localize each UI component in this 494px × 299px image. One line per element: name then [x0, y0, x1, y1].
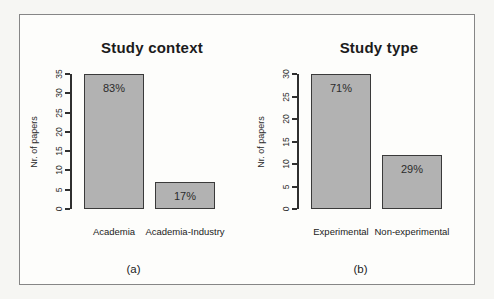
y-axis-tick	[65, 131, 70, 133]
panel-caption: (b)	[247, 263, 474, 275]
bar-percentage-label: 17%	[155, 190, 215, 202]
panel-caption: (a)	[20, 263, 247, 275]
y-axis-tick	[65, 150, 70, 152]
y-axis-line	[70, 74, 72, 209]
bar-percentage-label: 29%	[382, 163, 442, 175]
y-axis-tick	[292, 141, 297, 143]
y-axis-tick	[65, 92, 70, 94]
bar-academia	[84, 74, 144, 209]
y-axis-tick	[65, 189, 70, 191]
y-axis-tick	[292, 208, 297, 210]
bar-percentage-label: 83%	[84, 82, 144, 94]
y-axis-tick	[292, 96, 297, 98]
y-axis-tick	[65, 112, 70, 114]
y-axis-line	[297, 74, 299, 209]
chart-title: Study type	[289, 39, 469, 56]
scanned-figure-page: { "figure": { "caption_a": "(a)", "capti…	[0, 0, 494, 299]
y-axis-tick	[292, 163, 297, 165]
y-axis-tick	[65, 208, 70, 210]
bar-experimental	[311, 74, 371, 209]
chart-title: Study context	[62, 39, 242, 56]
figure-frame: Study context Nr. of papers 051015202530…	[19, 14, 475, 285]
study-type-chart: Study type Nr. of papers 05101520253071%…	[247, 15, 474, 284]
y-axis-tick	[292, 118, 297, 120]
y-axis-tick	[65, 169, 70, 171]
x-category-label-non-experimental: Non-experimental	[350, 226, 474, 237]
bar-percentage-label: 71%	[311, 82, 371, 94]
y-axis-tick	[292, 186, 297, 188]
y-axis-tick	[292, 73, 297, 75]
y-axis-tick	[65, 73, 70, 75]
study-context-chart: Study context Nr. of papers 051015202530…	[20, 15, 247, 284]
x-category-label-academia-industry: Academia-Industry	[123, 226, 247, 237]
